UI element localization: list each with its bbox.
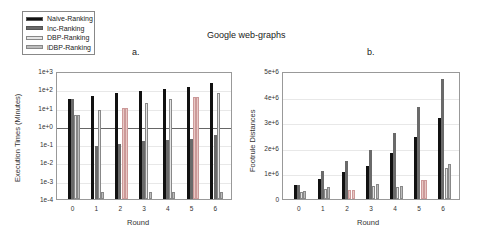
legend-item: Inc-Ranking (26, 24, 84, 33)
bar-idbp-ranking (352, 190, 355, 199)
x-tick-label: 4 (162, 205, 174, 212)
figure-title: Google web-graphs (207, 30, 286, 40)
y-tick-label: 1e-4 (25, 196, 53, 203)
y-tick-label: 1e-2 (25, 159, 53, 166)
bar-idbp-ranking (220, 192, 223, 199)
y-tick-label: 4e+6 (251, 94, 279, 101)
y-tick-label: 5e+6 (251, 68, 279, 75)
y-tick-label: 1e+0 (25, 123, 53, 130)
x-tick-label: 0 (67, 205, 79, 212)
legend: Naive-RankingInc-RankingDBP-RankingiDBP-… (22, 11, 95, 55)
x-tick-label: 1 (90, 205, 102, 212)
reference-line (57, 128, 231, 129)
bar-idbp-ranking (448, 164, 451, 199)
bar-idbp-ranking (101, 192, 104, 199)
legend-item: DBP-Ranking (26, 33, 89, 42)
bar-idbp-ranking (125, 108, 128, 199)
legend-swatch (26, 36, 43, 40)
legend-swatch (26, 45, 43, 49)
gridline (283, 99, 459, 100)
x-axis-label-a: Round (127, 218, 149, 227)
bar-dbp-ranking (145, 103, 148, 199)
panel-a-label: a. (132, 47, 140, 57)
x-tick-label: 5 (186, 205, 198, 212)
x-tick-label: 5 (413, 205, 425, 212)
gridline (57, 110, 231, 111)
y-tick-label: 0 (251, 196, 279, 203)
bar-idbp-ranking (424, 180, 427, 199)
x-tick-label: 3 (365, 205, 377, 212)
bar-idbp-ranking (400, 186, 403, 199)
x-tick-label: 0 (293, 205, 305, 212)
y-tick-label: 1e+3 (25, 68, 53, 75)
bar-idbp-ranking (376, 184, 379, 199)
legend-label: Inc-Ranking (47, 25, 84, 32)
legend-swatch (26, 26, 43, 30)
x-tick-label: 3 (138, 205, 150, 212)
bar-idbp-ranking (303, 191, 306, 199)
plot-area (56, 72, 232, 200)
y-tick-label: 1e+1 (25, 105, 53, 112)
legend-label: iDBP-Ranking (47, 44, 91, 51)
bar-idbp-ranking (196, 97, 199, 199)
x-tick-label: 2 (114, 205, 126, 212)
y-axis-label-a: Execution Times (Minutes) (13, 94, 22, 182)
legend-item: Naive-Ranking (26, 14, 93, 23)
y-tick-label: 1e-3 (25, 178, 53, 185)
bar-dbp-ranking (217, 93, 220, 199)
legend-label: DBP-Ranking (47, 34, 89, 41)
y-tick-label: 1e-1 (25, 141, 53, 148)
bar-dbp-ranking (169, 99, 172, 199)
bar-idbp-ranking (172, 192, 175, 199)
x-axis-label-b: Round (357, 218, 379, 227)
x-tick-label: 6 (437, 205, 449, 212)
legend-item: iDBP-Ranking (26, 43, 91, 52)
gridline (283, 124, 459, 125)
bar-idbp-ranking (77, 115, 80, 199)
x-tick-label: 4 (389, 205, 401, 212)
x-tick-label: 6 (209, 205, 221, 212)
x-tick-label: 2 (341, 205, 353, 212)
panel-b-label: b. (367, 47, 375, 57)
y-axis-label-b: Footrule Distances (248, 109, 257, 172)
legend-label: Naive-Ranking (47, 15, 93, 22)
bar-dbp-ranking (98, 110, 101, 199)
plot-area (282, 72, 460, 200)
bar-idbp-ranking (149, 192, 152, 199)
bar-idbp-ranking (327, 187, 330, 199)
y-tick-label: 1e+2 (25, 86, 53, 93)
gridline (57, 91, 231, 92)
legend-swatch (26, 17, 43, 21)
x-tick-label: 1 (317, 205, 329, 212)
